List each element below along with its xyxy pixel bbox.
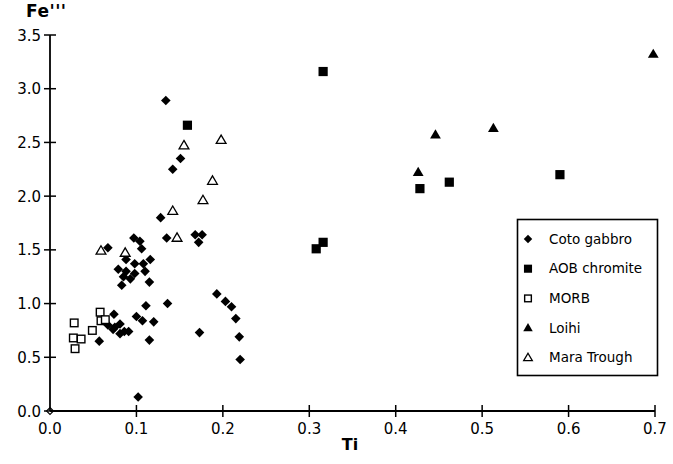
y-tick-label: 2.5 — [17, 134, 41, 152]
y-tick-label: 1.0 — [17, 295, 41, 313]
point-morb — [96, 308, 104, 316]
point-mara-trough — [168, 206, 178, 214]
point-coto-gabbro — [176, 154, 186, 164]
point-loihi — [413, 167, 424, 176]
point-morb — [70, 319, 78, 327]
point-aob-chromite — [183, 121, 192, 130]
scatter-plot-figure: 0.00.51.01.52.02.53.03.50.00.10.20.30.40… — [0, 0, 673, 464]
point-mara-trough — [172, 233, 182, 241]
point-aob-chromite — [555, 170, 564, 179]
point-loihi — [648, 49, 659, 58]
point-coto-gabbro — [231, 314, 241, 324]
point-coto-gabbro — [234, 332, 244, 342]
point-coto-gabbro — [140, 267, 150, 277]
point-morb — [70, 334, 78, 342]
legend-label-morb: MORB — [549, 290, 590, 306]
point-mara-trough — [216, 135, 226, 143]
legend-marker-aob-chromite — [524, 265, 532, 273]
point-mara-trough — [120, 248, 130, 256]
point-coto-gabbro — [145, 335, 155, 345]
point-mara-trough — [198, 195, 208, 203]
point-aob-chromite — [445, 178, 454, 187]
point-loihi — [430, 129, 441, 138]
point-coto-gabbro — [212, 289, 222, 299]
y-tick-label: 0.5 — [17, 349, 41, 367]
y-tick-label: 0.0 — [17, 403, 41, 421]
point-coto-gabbro — [149, 317, 159, 327]
y-tick-label: 2.0 — [17, 188, 41, 206]
legend-label-aob-chromite: AOB chromite — [549, 260, 642, 276]
point-coto-gabbro — [163, 299, 173, 309]
point-coto-gabbro — [156, 213, 166, 223]
point-coto-gabbro — [145, 277, 155, 287]
point-coto-gabbro — [141, 301, 151, 311]
point-morb — [71, 345, 79, 353]
y-tick-label: 1.5 — [17, 241, 41, 259]
y-tick-label: 3.5 — [17, 27, 41, 45]
point-coto-gabbro — [113, 264, 123, 274]
point-mara-trough — [208, 176, 218, 184]
point-loihi — [488, 123, 499, 132]
legend-marker-morb — [525, 295, 532, 302]
x-axis-title: Ti — [0, 435, 673, 454]
chart-canvas: 0.00.51.01.52.02.53.03.50.00.10.20.30.40… — [0, 0, 673, 464]
point-coto-gabbro — [162, 233, 172, 243]
point-morb — [77, 335, 85, 343]
point-aob-chromite — [319, 67, 328, 76]
point-aob-chromite — [319, 238, 328, 247]
point-coto-gabbro — [168, 164, 178, 174]
point-coto-gabbro — [109, 310, 119, 320]
point-coto-gabbro — [235, 355, 245, 365]
legend-label-loihi: Loihi — [549, 320, 581, 336]
point-mara-trough — [179, 140, 189, 148]
legend-label-mara-trough: Mara Trough — [549, 349, 633, 365]
point-coto-gabbro — [130, 259, 140, 269]
point-coto-gabbro — [195, 328, 205, 338]
legend-label-coto-gabbro: Coto gabbro — [549, 231, 632, 247]
point-coto-gabbro — [133, 392, 143, 402]
point-coto-gabbro — [161, 96, 171, 106]
point-coto-gabbro — [137, 244, 147, 254]
point-coto-gabbro — [94, 336, 104, 346]
y-tick-label: 3.0 — [17, 80, 41, 98]
point-coto-gabbro — [117, 281, 127, 291]
point-aob-chromite — [415, 184, 424, 193]
point-morb — [89, 327, 97, 335]
point-morb — [102, 316, 110, 324]
y-axis-title: Fe''' — [26, 1, 67, 21]
